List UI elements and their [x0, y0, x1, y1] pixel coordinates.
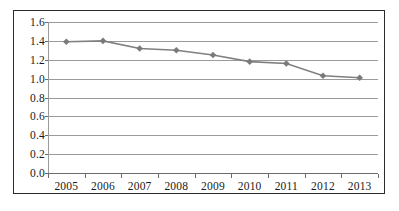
y-axis-tick-labels: 0.00.20.40.60.81.01.21.41.6: [14, 22, 45, 173]
x-axis-tick-mark: [85, 174, 86, 178]
y-axis-tick-label: 1.4: [30, 35, 45, 47]
data-point-marker: [136, 45, 143, 52]
line-chart-figure: 0.00.20.40.60.81.01.21.41.6 200520062007…: [0, 0, 399, 211]
series-line: [66, 41, 359, 78]
y-axis-tick-label: 0.0: [30, 167, 45, 179]
y-axis-tick-mark: [45, 60, 48, 61]
x-axis-tick-label: 2011: [275, 180, 298, 192]
x-axis-tick-mark: [378, 174, 379, 178]
x-axis-tick-mark: [195, 174, 196, 178]
y-axis-tick-mark: [45, 116, 48, 117]
data-point-marker: [63, 39, 70, 46]
y-axis-tick-label: 0.8: [30, 92, 45, 104]
x-axis-tick-mark: [158, 174, 159, 178]
y-axis-tick-mark: [45, 154, 48, 155]
x-axis-tick-label: 2010: [238, 180, 262, 192]
x-axis-tick-mark: [231, 174, 232, 178]
x-axis-tick-label: 2005: [54, 180, 78, 192]
x-axis-tick-mark: [48, 174, 49, 178]
data-point-marker: [210, 52, 217, 59]
data-point-marker: [356, 74, 363, 81]
x-axis-tick-mark: [268, 174, 269, 178]
y-axis-tick-mark: [45, 79, 48, 80]
x-axis-tick-mark: [341, 174, 342, 178]
y-axis-tick-mark: [45, 22, 48, 23]
y-axis-tick-label: 1.6: [30, 16, 45, 28]
data-point-marker: [283, 60, 290, 67]
y-axis-tick-mark: [45, 41, 48, 42]
x-axis-tick-marks: [48, 174, 378, 179]
y-axis-tick-label: 1.2: [30, 54, 45, 66]
data-series-line: [48, 22, 378, 173]
x-axis-tick-label: 2013: [348, 180, 372, 192]
data-point-marker: [246, 58, 253, 65]
data-point-marker: [320, 72, 327, 79]
x-axis-tick-labels: 200520062007200820092010201120122013: [48, 180, 378, 196]
y-axis-tick-label: 0.4: [30, 129, 45, 141]
y-axis-tick-mark: [45, 98, 48, 99]
y-axis-tick-label: 0.2: [30, 148, 45, 160]
x-axis-tick-label: 2006: [91, 180, 115, 192]
x-axis-tick-label: 2012: [311, 180, 335, 192]
y-axis-tick-mark: [45, 135, 48, 136]
x-axis-tick-mark: [305, 174, 306, 178]
x-axis-tick-mark: [121, 174, 122, 178]
x-axis-tick-label: 2007: [128, 180, 152, 192]
x-axis-tick-label: 2009: [201, 180, 225, 192]
y-axis-tick-label: 0.6: [30, 110, 45, 122]
data-point-marker: [100, 38, 107, 45]
y-axis-tick-label: 1.0: [30, 73, 45, 85]
y-axis-tick-mark: [45, 173, 48, 174]
data-point-marker: [173, 47, 180, 54]
x-axis-tick-label: 2008: [164, 180, 188, 192]
